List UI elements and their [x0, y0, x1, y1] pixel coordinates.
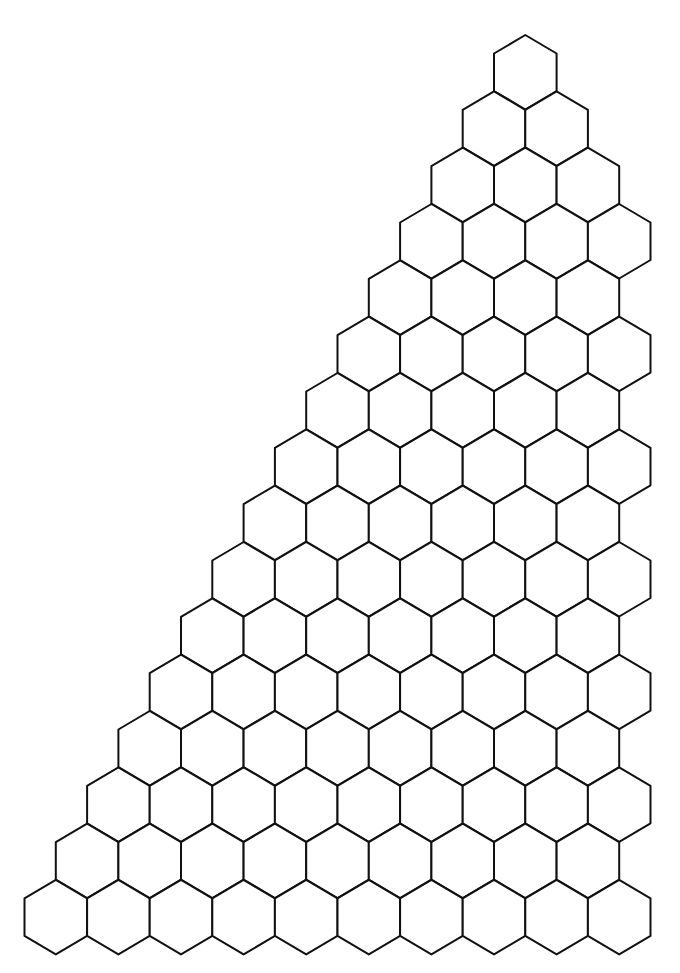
hex-cells	[25, 35, 651, 954]
hex-grid-diagram	[0, 0, 680, 973]
